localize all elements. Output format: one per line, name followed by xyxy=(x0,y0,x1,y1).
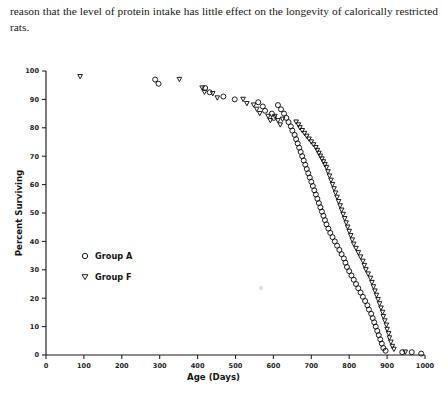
data-point-triangle-1-68 xyxy=(381,315,386,319)
data-point-triangle-1-47 xyxy=(345,225,350,229)
data-point-triangle-1-55 xyxy=(361,259,366,263)
data-point-triangle-1-42 xyxy=(338,204,343,208)
data-point-triangle-1-49 xyxy=(348,234,353,238)
y-tick-label-20: 20 xyxy=(30,295,40,303)
data-point-triangle-1-53 xyxy=(356,251,361,255)
data-point-triangle-1-35 xyxy=(327,174,332,178)
data-point-circle-0-6 xyxy=(256,100,261,105)
data-point-triangle-1-65 xyxy=(377,302,382,306)
data-point-triangle-1-56 xyxy=(362,263,367,267)
y-tick-label-60: 60 xyxy=(30,181,40,189)
legend-entry-0: Group A xyxy=(82,251,133,261)
y-tick-label-40: 40 xyxy=(30,238,40,246)
data-point-triangle-1-39 xyxy=(333,191,338,195)
data-point-triangle-1-69 xyxy=(383,319,388,323)
chart-axis-labels: 0102030405060708090100010020030040050060… xyxy=(14,67,435,382)
data-point-circle-0-4 xyxy=(221,94,226,99)
data-point-triangle-1-12 xyxy=(268,119,273,123)
x-tick-label-800: 800 xyxy=(342,362,356,370)
data-point-triangle-1-1 xyxy=(177,77,182,81)
data-point-triangle-1-62 xyxy=(373,289,378,293)
data-point-triangle-1-36 xyxy=(329,178,334,182)
data-point-triangle-1-52 xyxy=(354,246,359,250)
data-point-triangle-1-57 xyxy=(364,268,369,272)
x-tick-label-300: 300 xyxy=(153,362,167,370)
data-point-triangle-1-38 xyxy=(332,187,337,191)
x-tick-label-700: 700 xyxy=(304,362,318,370)
legend-label-0: Group A xyxy=(95,251,133,261)
y-tick-label-30: 30 xyxy=(30,266,40,274)
data-point-triangle-1-51 xyxy=(351,242,356,246)
data-point-triangle-1-8 xyxy=(251,103,256,107)
data-point-triangle-1-44 xyxy=(341,212,346,216)
data-point-triangle-1-37 xyxy=(330,182,335,186)
y-axis-title: Percent Surviving xyxy=(14,170,24,256)
legend-label-1: Group F xyxy=(95,272,132,282)
open-circle-marker-icon xyxy=(82,253,87,258)
data-point-triangle-1-45 xyxy=(342,217,347,221)
y-tick-label-80: 80 xyxy=(30,124,40,132)
data-point-triangle-1-63 xyxy=(374,293,379,297)
data-point-circle-0-0 xyxy=(153,77,158,82)
data-point-triangle-1-73 xyxy=(387,336,392,340)
data-point-triangle-1-76 xyxy=(392,347,397,351)
data-point-triangle-1-50 xyxy=(350,238,355,242)
y-tick-label-10: 10 xyxy=(30,323,40,331)
data-point-triangle-1-33 xyxy=(324,165,329,169)
y-tick-label-0: 0 xyxy=(34,351,39,359)
x-tick-label-600: 600 xyxy=(267,362,281,370)
data-point-circle-0-5 xyxy=(232,97,237,102)
x-axis-title: Age (Days) xyxy=(187,372,240,382)
data-point-triangle-1-54 xyxy=(358,255,363,259)
series-group-f xyxy=(78,75,408,355)
data-point-circle-0-1 xyxy=(156,81,161,86)
x-tick-label-0: 0 xyxy=(44,362,49,370)
data-point-triangle-1-59 xyxy=(368,276,373,280)
survival-chart-svg: 0102030405060708090100010020030040050060… xyxy=(0,0,447,397)
y-tick-label-90: 90 xyxy=(30,96,40,104)
data-point-circle-0-8 xyxy=(263,108,268,113)
data-point-triangle-1-66 xyxy=(379,306,384,310)
data-point-triangle-1-43 xyxy=(339,208,344,212)
open-triangle-down-marker-icon xyxy=(82,275,88,280)
y-tick-label-70: 70 xyxy=(30,153,40,161)
data-point-triangle-1-58 xyxy=(366,272,371,276)
data-point-triangle-1-16 xyxy=(280,117,285,121)
x-tick-label-900: 900 xyxy=(380,362,394,370)
data-point-triangle-1-74 xyxy=(389,340,394,344)
data-point-triangle-1-0 xyxy=(78,75,83,79)
scan-artifact-speck xyxy=(259,286,263,290)
data-point-triangle-1-64 xyxy=(376,297,381,301)
y-tick-label-50: 50 xyxy=(30,209,40,217)
x-tick-label-1000: 1000 xyxy=(416,362,435,370)
chart-data-points xyxy=(78,75,424,357)
data-point-triangle-1-70 xyxy=(384,323,389,327)
data-point-triangle-1-11 xyxy=(266,114,271,118)
chart-axes xyxy=(42,71,425,359)
data-point-triangle-1-6 xyxy=(241,97,246,101)
x-tick-label-200: 200 xyxy=(115,362,129,370)
data-point-triangle-1-34 xyxy=(326,170,331,174)
legend-entry-1: Group F xyxy=(82,272,131,282)
data-point-triangle-1-48 xyxy=(347,229,352,233)
data-point-triangle-1-14 xyxy=(276,119,281,123)
data-point-triangle-1-72 xyxy=(386,332,391,336)
data-point-triangle-1-41 xyxy=(336,199,341,203)
data-point-triangle-1-9 xyxy=(254,107,259,111)
survival-curve-figure: 0102030405060708090100010020030040050060… xyxy=(0,0,447,397)
data-point-triangle-1-67 xyxy=(380,310,385,314)
data-point-triangle-1-60 xyxy=(370,280,375,284)
data-point-triangle-1-61 xyxy=(371,285,376,289)
x-tick-label-400: 400 xyxy=(191,362,205,370)
data-point-triangle-1-5 xyxy=(215,96,220,100)
data-point-triangle-1-40 xyxy=(335,195,340,199)
chart-legend: Group AGroup F xyxy=(82,251,133,282)
data-point-triangle-1-10 xyxy=(257,111,262,115)
data-point-circle-0-71 xyxy=(409,350,414,355)
data-point-triangle-1-71 xyxy=(385,327,390,331)
data-point-triangle-1-46 xyxy=(344,221,349,225)
y-tick-label-100: 100 xyxy=(25,67,39,75)
data-point-triangle-1-7 xyxy=(245,102,250,106)
data-point-triangle-1-4 xyxy=(210,92,215,96)
x-tick-label-500: 500 xyxy=(229,362,243,370)
